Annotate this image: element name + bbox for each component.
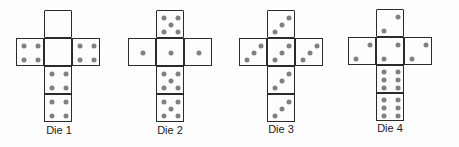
die-label-3: Die 3 bbox=[268, 123, 294, 135]
pip-dot-icon bbox=[280, 107, 285, 112]
pip-dot-icon bbox=[396, 15, 401, 20]
pip-dot-icon bbox=[287, 72, 292, 77]
pip-dot-icon bbox=[245, 58, 250, 63]
die-label-4: Die 4 bbox=[377, 122, 403, 134]
die-face-right bbox=[404, 37, 432, 65]
pip-dot-icon bbox=[50, 86, 55, 91]
die-face-center bbox=[267, 38, 295, 66]
die-face-right bbox=[184, 38, 212, 66]
die-face-below1 bbox=[156, 66, 184, 94]
pip-dot-icon bbox=[162, 100, 167, 105]
pip-dot-icon bbox=[92, 44, 97, 49]
die-face-center bbox=[376, 37, 404, 65]
pip-dot-icon bbox=[176, 30, 181, 35]
pip-dot-icon bbox=[315, 44, 320, 49]
pip-dot-icon bbox=[50, 100, 55, 105]
pip-dot-icon bbox=[162, 114, 167, 119]
pip-dot-icon bbox=[308, 51, 313, 56]
die-face-below2 bbox=[156, 94, 184, 122]
pip-dot-icon bbox=[176, 100, 181, 105]
pip-dot-icon bbox=[368, 43, 373, 48]
pip-dot-icon bbox=[36, 44, 41, 49]
pip-dot-icon bbox=[64, 114, 69, 119]
pip-dot-icon bbox=[64, 86, 69, 91]
pip-dot-icon bbox=[382, 85, 387, 90]
die-face-left bbox=[239, 38, 267, 66]
pip-dot-icon bbox=[78, 44, 83, 49]
pip-dot-icon bbox=[301, 58, 306, 63]
pip-dot-icon bbox=[22, 58, 27, 63]
pip-dot-icon bbox=[396, 113, 401, 118]
pip-dot-icon bbox=[273, 30, 278, 35]
pip-dot-icon bbox=[287, 44, 292, 49]
pip-dot-icon bbox=[50, 72, 55, 77]
pip-dot-icon bbox=[162, 86, 167, 91]
pip-dot-icon bbox=[396, 106, 401, 111]
pip-dot-icon bbox=[162, 30, 167, 35]
die-face-below2 bbox=[44, 94, 72, 122]
pip-dot-icon bbox=[169, 107, 174, 112]
pip-dot-icon bbox=[22, 44, 27, 49]
pip-dot-icon bbox=[396, 98, 401, 103]
pip-dot-icon bbox=[273, 86, 278, 91]
die-face-below1 bbox=[44, 66, 72, 94]
pip-dot-icon bbox=[176, 16, 181, 21]
die-face-top bbox=[376, 9, 404, 37]
pip-dot-icon bbox=[382, 113, 387, 118]
pip-dot-icon bbox=[176, 86, 181, 91]
die-face-center bbox=[44, 38, 72, 66]
pip-dot-icon bbox=[64, 100, 69, 105]
die-face-below1 bbox=[376, 65, 404, 93]
die-face-left bbox=[128, 38, 156, 66]
pip-dot-icon bbox=[197, 51, 202, 56]
pip-dot-icon bbox=[410, 57, 415, 62]
pip-dot-icon bbox=[141, 51, 146, 56]
pip-dot-icon bbox=[36, 58, 41, 63]
die-label-1: Die 1 bbox=[46, 124, 72, 136]
pip-dot-icon bbox=[382, 98, 387, 103]
die-face-top bbox=[267, 10, 295, 38]
pip-dot-icon bbox=[162, 72, 167, 77]
pip-dot-icon bbox=[169, 79, 174, 84]
die-face-left bbox=[348, 37, 376, 65]
pip-dot-icon bbox=[252, 51, 257, 56]
pip-dot-icon bbox=[176, 114, 181, 119]
pip-dot-icon bbox=[92, 58, 97, 63]
die-face-center bbox=[156, 38, 184, 66]
die-face-below2 bbox=[376, 93, 404, 121]
pip-dot-icon bbox=[396, 70, 401, 75]
pip-dot-icon bbox=[382, 106, 387, 111]
pip-dot-icon bbox=[396, 85, 401, 90]
pip-dot-icon bbox=[78, 58, 83, 63]
pip-dot-icon bbox=[280, 51, 285, 56]
pip-dot-icon bbox=[382, 70, 387, 75]
pip-dot-icon bbox=[354, 57, 359, 62]
pip-dot-icon bbox=[50, 114, 55, 119]
pip-dot-icon bbox=[169, 23, 174, 28]
pip-dot-icon bbox=[382, 57, 387, 62]
pip-dot-icon bbox=[273, 58, 278, 63]
pip-dot-icon bbox=[259, 44, 264, 49]
pip-dot-icon bbox=[287, 100, 292, 105]
pip-dot-icon bbox=[280, 23, 285, 28]
pip-dot-icon bbox=[176, 72, 181, 77]
pip-dot-icon bbox=[287, 16, 292, 21]
pip-dot-icon bbox=[424, 43, 429, 48]
die-label-2: Die 2 bbox=[157, 124, 183, 136]
pip-dot-icon bbox=[382, 29, 387, 34]
pip-dot-icon bbox=[169, 51, 174, 56]
pip-dot-icon bbox=[162, 16, 167, 21]
die-face-below1 bbox=[267, 66, 295, 94]
pip-dot-icon bbox=[280, 79, 285, 84]
pip-dot-icon bbox=[396, 43, 401, 48]
die-face-top bbox=[44, 10, 72, 38]
die-face-right bbox=[72, 38, 100, 66]
die-face-right bbox=[295, 38, 323, 66]
die-face-below2 bbox=[267, 94, 295, 122]
pip-dot-icon bbox=[382, 78, 387, 83]
pip-dot-icon bbox=[273, 114, 278, 119]
pip-dot-icon bbox=[396, 78, 401, 83]
pip-dot-icon bbox=[64, 72, 69, 77]
die-face-left bbox=[16, 38, 44, 66]
die-face-top bbox=[156, 10, 184, 38]
